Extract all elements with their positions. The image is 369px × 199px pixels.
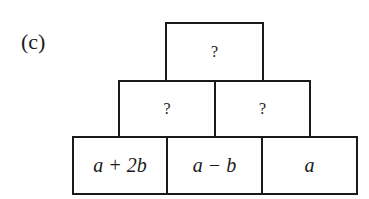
cell-value: ? xyxy=(259,100,266,118)
figure-label: (c) xyxy=(21,29,45,55)
cell-expression: a xyxy=(305,154,315,177)
pyramid-cell-bottom-middle: a − b xyxy=(166,136,263,195)
pyramid-cell-bottom-right: a xyxy=(261,136,358,195)
cell-expression: a + 2b xyxy=(93,154,147,177)
cell-value: ? xyxy=(163,100,170,118)
pyramid-cell-middle-right: ? xyxy=(214,80,311,138)
cell-value: ? xyxy=(211,43,218,61)
pyramid-cell-top: ? xyxy=(165,22,264,82)
pyramid-cell-bottom-left: a + 2b xyxy=(72,136,168,195)
pyramid-cell-middle-left: ? xyxy=(118,80,216,138)
cell-expression: a − b xyxy=(193,154,237,177)
